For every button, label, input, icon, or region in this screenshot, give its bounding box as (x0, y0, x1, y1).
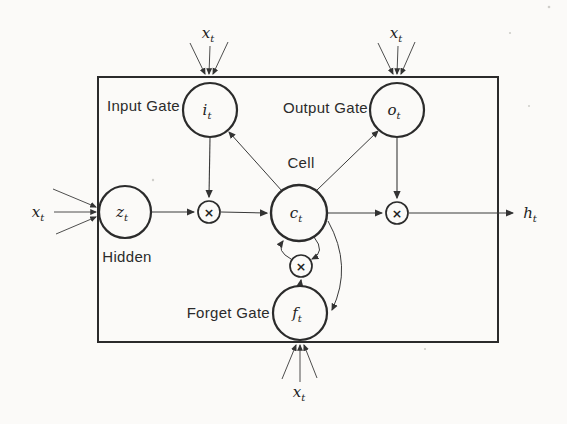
input-symbol-left: xt (32, 203, 45, 223)
input-gate-label: Input Gate (107, 97, 180, 114)
edge-multiply-to-cell (221, 212, 267, 213)
edge-cell-to-forgetgate-arc (328, 221, 342, 310)
multiply-icon: × (204, 205, 214, 220)
diagram-canvas: × × × it ot zt ct ft xt xt xt xt ht Inpu… (0, 0, 567, 424)
input-fan-left (53, 189, 96, 234)
input-symbol-top-right: xt (390, 24, 403, 44)
multiply-icon: × (392, 206, 402, 221)
edge-cell-to-forgetmultiply (312, 237, 320, 259)
hidden-label: Hidden (102, 248, 151, 265)
paper-speck (152, 179, 154, 181)
multiply-icon: × (296, 259, 306, 274)
paper-speck (548, 6, 551, 9)
output-symbol: ht (523, 204, 538, 224)
lstm-diagram: × × × it ot zt ct ft xt xt xt xt ht Inpu… (0, 0, 567, 424)
edge-cell-to-inputgate (229, 132, 282, 191)
input-symbol-bottom: xt (293, 383, 306, 403)
input-fan-bottom (282, 345, 317, 382)
paper-speck (509, 32, 511, 34)
input-fan-top-right (378, 42, 415, 74)
paper-speck (424, 348, 426, 350)
edge-cell-to-outputgate (316, 131, 378, 191)
input-symbol-top-left: xt (202, 24, 215, 44)
output-gate-label: Output Gate (283, 99, 368, 116)
paper-speck (528, 105, 530, 107)
edge-forgetmultiply-to-cell (281, 241, 291, 259)
cell-label: Cell (287, 154, 314, 171)
input-fan-top-left (190, 42, 228, 74)
edge-inputgate-to-multiply (209, 138, 210, 197)
forget-gate-label: Forget Gate (187, 304, 270, 321)
